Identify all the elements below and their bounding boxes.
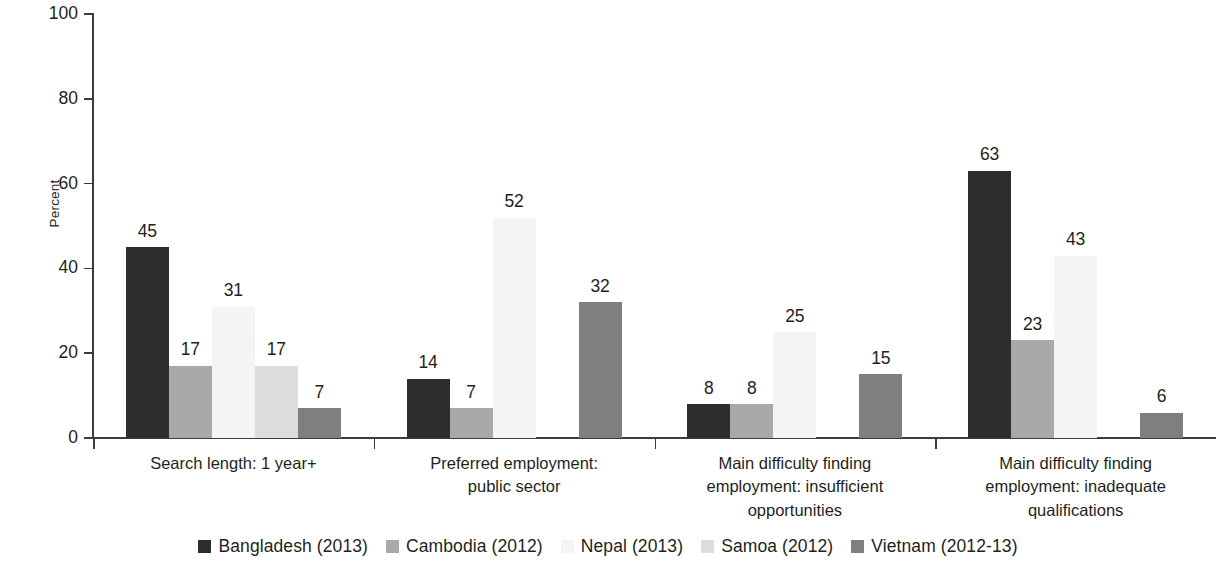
legend-label: Nepal (2013) [581,536,683,557]
bar-slot-samoa: 17 [255,14,298,438]
legend-swatch-vietnam [851,540,864,553]
bar-value-label: 15 [845,350,916,368]
bar[interactable] [730,404,773,438]
bar-group-3: 882515 [687,14,902,438]
bar-group-4: 6323436 [968,14,1183,438]
bar-group-2: 1475232 [407,14,622,438]
legend-swatch-nepal [561,540,574,553]
y-axis-tick-label-100: 100 [0,3,78,24]
bar-slot-bangladesh: 8 [687,14,730,438]
bar[interactable] [773,332,816,438]
category-label-line: Main difficulty finding [935,452,1216,475]
bar[interactable] [169,366,212,438]
bar-slot-cambodia: 23 [1011,14,1054,438]
category-label-line: employment: inadequate [935,475,1216,498]
category-label-3: Main difficulty findingemployment: insuf… [655,452,936,522]
x-axis-group-tick-3 [935,438,937,449]
bar-slot-cambodia: 7 [450,14,493,438]
y-axis-tick-labels: 020406080100 [0,0,78,564]
category-label-line: qualifications [935,499,1216,522]
category-labels: Search length: 1 year+Preferred employme… [93,452,1216,528]
legend-item-bangladesh[interactable]: Bangladesh (2013) [198,536,368,557]
category-label-line: opportunities [655,499,936,522]
bar-slot-samoa [1097,14,1140,438]
bar-slot-cambodia: 17 [169,14,212,438]
bar[interactable] [493,218,536,438]
x-axis-origin-tick [93,438,95,449]
bar[interactable] [968,171,1011,438]
legend-swatch-bangladesh [198,540,211,553]
y-axis-tick-label-0: 0 [0,427,78,448]
bar-slot-nepal: 43 [1054,14,1097,438]
bar-group-bars: 882515 [687,14,902,438]
legend-item-samoa[interactable]: Samoa (2012) [701,536,833,557]
bar-slot-bangladesh: 14 [407,14,450,438]
bar-chart-figure: 020406080100 Percent 4517311771475232882… [0,0,1216,564]
category-label-line: employment: insufficient [655,475,936,498]
bar[interactable] [450,408,493,438]
bar[interactable] [687,404,730,438]
category-label-line: Search length: 1 year+ [93,452,374,475]
y-axis-tick-100 [84,13,93,15]
y-axis-tick-label-20: 20 [0,342,78,363]
legend-item-vietnam[interactable]: Vietnam (2012-13) [851,536,1017,557]
bar[interactable] [1140,413,1183,438]
legend-item-nepal[interactable]: Nepal (2013) [561,536,683,557]
legend-label: Samoa (2012) [721,536,833,557]
category-label-4: Main difficulty findingemployment: inade… [935,452,1216,522]
y-axis-tick-0 [84,437,93,439]
legend-swatch-samoa [701,540,714,553]
bar-group-1: 451731177 [126,14,341,438]
bar[interactable] [212,307,255,438]
bar[interactable] [255,366,298,438]
bar-slot-bangladesh: 45 [126,14,169,438]
bar-value-label: 32 [565,278,636,296]
bar-value-label: 7 [284,384,355,402]
bar-group-bars: 1475232 [407,14,622,438]
category-label-line: Main difficulty finding [655,452,936,475]
legend-label: Bangladesh (2013) [218,536,368,557]
bar[interactable] [1011,340,1054,438]
category-label-1: Search length: 1 year+ [93,452,374,475]
bar-slot-nepal: 31 [212,14,255,438]
bar-slot-nepal: 25 [773,14,816,438]
y-axis-tick-60 [84,183,93,185]
legend-label: Vietnam (2012-13) [871,536,1017,557]
bar-group-bars: 6323436 [968,14,1183,438]
y-axis-tick-label-40: 40 [0,257,78,278]
bar-slot-vietnam: 15 [859,14,902,438]
bar-slot-samoa [816,14,859,438]
y-axis-tick-40 [84,268,93,270]
y-axis-tick-label-80: 80 [0,88,78,109]
chart-legend: Bangladesh (2013)Cambodia (2012)Nepal (2… [0,536,1216,557]
legend-item-cambodia[interactable]: Cambodia (2012) [386,536,543,557]
y-axis-tick-20 [84,352,93,354]
y-axis-title: Percent [47,144,62,264]
bar-slot-samoa [536,14,579,438]
bar[interactable] [859,374,902,438]
bar-value-label: 6 [1126,388,1197,406]
legend-swatch-cambodia [386,540,399,553]
bar-slot-vietnam: 7 [298,14,341,438]
x-axis-group-tick-2 [655,438,657,449]
y-axis-tick-label-60: 60 [0,173,78,194]
category-label-2: Preferred employment:public sector [374,452,655,499]
bar-groups: 45173117714752328825156323436 [93,14,1216,438]
bar-slot-vietnam: 6 [1140,14,1183,438]
bar[interactable] [1054,256,1097,438]
bar[interactable] [298,408,341,438]
bar-slot-vietnam: 32 [579,14,622,438]
category-label-line: Preferred employment: [374,452,655,475]
bar-slot-nepal: 52 [493,14,536,438]
x-axis-group-tick-1 [374,438,376,449]
bar-group-bars: 451731177 [126,14,341,438]
legend-label: Cambodia (2012) [406,536,543,557]
y-axis-tick-80 [84,98,93,100]
bar[interactable] [579,302,622,438]
category-label-line: public sector [374,475,655,498]
bar-slot-bangladesh: 63 [968,14,1011,438]
bar-slot-cambodia: 8 [730,14,773,438]
